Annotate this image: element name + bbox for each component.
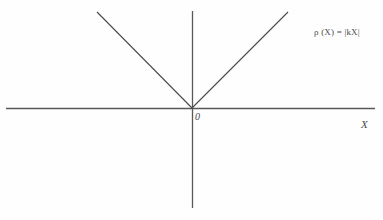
function-formula-label: ρ (X) = |kX| (314, 28, 360, 37)
x-axis-label: X (361, 119, 368, 130)
origin-label: 0 (195, 112, 200, 122)
function-left-branch (97, 12, 192, 108)
function-right-branch (192, 12, 288, 108)
absolute-value-function-figure: 0 X ρ (X) = |kX| (0, 0, 383, 220)
